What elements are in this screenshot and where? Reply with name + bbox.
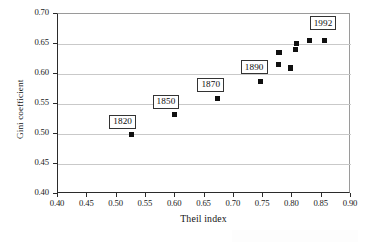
y-tick-mark bbox=[53, 103, 57, 104]
y-tick-label: 0.70 bbox=[15, 8, 49, 17]
x-tick-mark bbox=[350, 193, 351, 197]
scan-artifact bbox=[232, 230, 358, 242]
y-tick-mark bbox=[53, 73, 57, 74]
y-tick-label: 0.55 bbox=[15, 98, 49, 107]
y-tick-mark bbox=[53, 133, 57, 134]
x-tick-mark bbox=[321, 193, 322, 197]
gridline-y bbox=[58, 74, 351, 75]
data-point bbox=[276, 50, 281, 55]
gridline-y bbox=[58, 134, 351, 135]
data-point bbox=[215, 96, 220, 101]
data-point bbox=[294, 41, 299, 46]
year-label-1890: 1890 bbox=[241, 60, 268, 74]
data-point bbox=[288, 65, 293, 70]
gridline-y bbox=[58, 164, 351, 165]
y-tick-mark bbox=[53, 163, 57, 164]
data-point bbox=[258, 79, 263, 84]
data-point bbox=[293, 47, 298, 52]
x-tick-label: 0.90 bbox=[333, 199, 367, 208]
data-point bbox=[276, 62, 281, 67]
y-tick-label: 0.40 bbox=[15, 188, 49, 197]
plot-area bbox=[57, 13, 350, 193]
x-tick-mark bbox=[86, 193, 87, 197]
y-tick-label: 0.65 bbox=[15, 38, 49, 47]
year-label-1820: 1820 bbox=[109, 115, 136, 129]
x-tick-mark bbox=[204, 193, 205, 197]
x-tick-mark bbox=[233, 193, 234, 197]
y-tick-label: 0.45 bbox=[15, 158, 49, 167]
x-tick-mark bbox=[291, 193, 292, 197]
x-axis-title: Theil index bbox=[144, 213, 264, 224]
gridline-y bbox=[58, 44, 351, 45]
data-point bbox=[129, 132, 134, 137]
y-tick-mark bbox=[53, 13, 57, 14]
year-label-1850: 1850 bbox=[153, 95, 180, 109]
x-tick-mark bbox=[174, 193, 175, 197]
scatter-plot-figure: Gini coefficient 0.400.450.500.550.600.6… bbox=[0, 0, 367, 247]
x-tick-mark bbox=[145, 193, 146, 197]
y-tick-label: 0.60 bbox=[15, 68, 49, 77]
x-tick-mark bbox=[57, 193, 58, 197]
x-tick-mark bbox=[262, 193, 263, 197]
gridline-y bbox=[58, 104, 351, 105]
x-tick-mark bbox=[116, 193, 117, 197]
data-point bbox=[322, 38, 327, 43]
year-label-1870: 1870 bbox=[197, 78, 224, 92]
year-label-1992: 1992 bbox=[310, 16, 337, 30]
y-tick-mark bbox=[53, 43, 57, 44]
y-tick-label: 0.50 bbox=[15, 128, 49, 137]
data-point bbox=[307, 38, 312, 43]
data-point bbox=[172, 112, 177, 117]
